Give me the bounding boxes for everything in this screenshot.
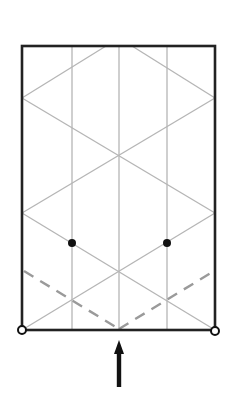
corner-circle-icon [211, 327, 219, 335]
crease-pattern-diagram [0, 0, 238, 419]
arrow-shaft [117, 352, 121, 387]
reference-dot [68, 239, 76, 247]
reference-dot [163, 239, 171, 247]
corner-circle-icon [18, 326, 26, 334]
